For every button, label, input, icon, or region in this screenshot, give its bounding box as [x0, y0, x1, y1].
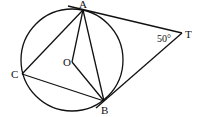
- angle-T-label: 50°: [157, 33, 171, 44]
- radius-OA: [72, 10, 83, 62]
- label-T: T: [185, 28, 192, 40]
- chord-CB: [22, 74, 104, 101]
- label-C: C: [11, 68, 18, 80]
- tangent-TB: [96, 33, 182, 108]
- label-B: B: [101, 104, 108, 116]
- label-O: O: [63, 56, 71, 68]
- label-A: A: [79, 0, 87, 10]
- geometry-figure: A B C O T 50°: [0, 0, 201, 117]
